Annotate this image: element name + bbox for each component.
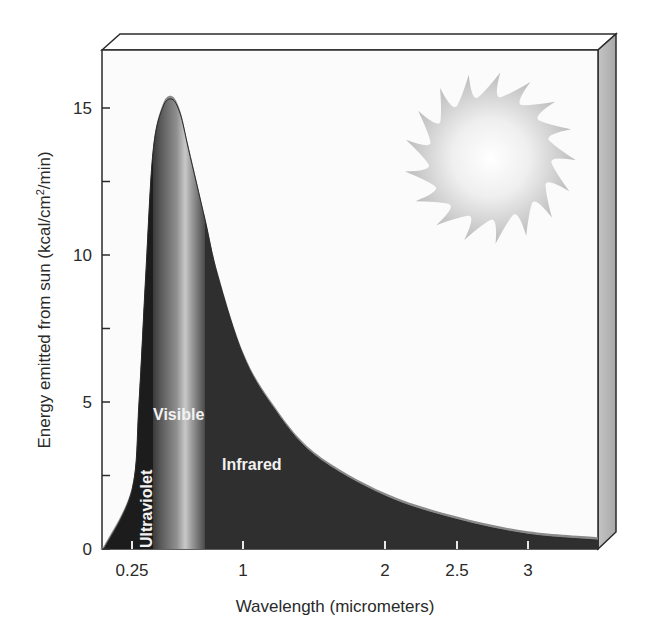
x-tick-label: 0.25 [115,561,148,580]
y-axis-title: Energy emitted from sun (kcal/cm2/min) [34,151,54,448]
x-tick-label: 3 [523,561,532,580]
y-tick-label: 0 [83,540,92,559]
y-axis-title-main: Energy emitted from sun (kcal/cm [35,195,54,448]
x-tick-label: 1 [238,561,247,580]
box-top-face [102,34,616,50]
y-axis-title-end: /min) [35,151,54,189]
box-side-face [598,34,616,549]
y-tick-label: 5 [83,393,92,412]
x-tick-label: 2.5 [445,561,469,580]
ultraviolet-label: Ultraviolet [138,469,155,548]
y-tick-label: 10 [73,246,92,265]
y-tick-label: 15 [73,99,92,118]
infrared-label: Infrared [222,456,282,473]
visible-label: Visible [153,406,204,423]
x-tick-label: 2 [380,561,389,580]
x-axis-title: Wavelength (micrometers) [236,597,435,616]
solar-spectrum-chart: 051015 0.25122.53 Ultraviolet Visible In… [0,0,645,637]
